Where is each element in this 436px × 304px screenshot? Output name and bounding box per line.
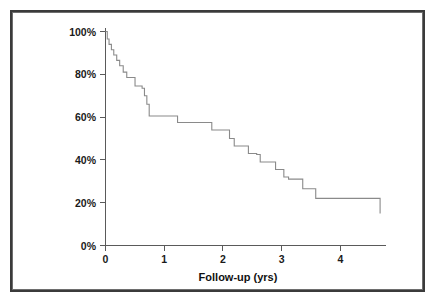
y-axis-tick-labels: 100% 80% 60% 40% 20% 0% <box>69 26 97 252</box>
y-tick-label-60: 60% <box>75 111 97 123</box>
x-tick-label-1: 1 <box>161 253 167 265</box>
y-tick-label-20: 20% <box>75 197 97 209</box>
y-tick-label-0: 0% <box>81 240 97 252</box>
x-tick-label-4: 4 <box>337 253 343 265</box>
x-axis-ticks <box>106 246 341 252</box>
x-tick-label-3: 3 <box>279 253 285 265</box>
survival-chart: 100% 80% 60% 40% 20% 0% 0 1 2 3 4 Follow… <box>0 0 436 304</box>
x-tick-label-2: 2 <box>220 253 226 265</box>
y-tick-label-80: 80% <box>75 68 97 80</box>
x-axis-tick-labels: 0 1 2 3 4 <box>103 253 344 265</box>
y-axis-ticks <box>100 32 106 246</box>
x-tick-label-0: 0 <box>103 253 109 265</box>
figure-root: 100% 80% 60% 40% 20% 0% 0 1 2 3 4 Follow… <box>0 0 436 304</box>
y-tick-label-40: 40% <box>75 154 97 166</box>
survival-curve-line <box>106 32 381 214</box>
x-axis-title: Follow-up (yrs) <box>199 271 278 283</box>
y-tick-label-100: 100% <box>69 26 97 38</box>
